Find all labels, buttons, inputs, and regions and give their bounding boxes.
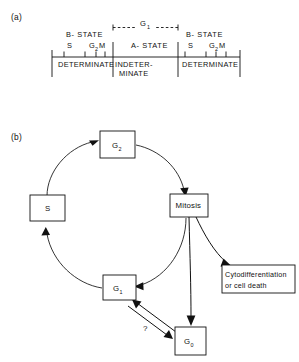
node-g1-box[interactable] [103,275,136,300]
a-state-label: A- STATE [131,41,168,50]
node-mitosis[interactable]: Mitosis [170,194,208,217]
b-state-left-label: B- STATE [66,30,103,39]
phase-g2-left-sub: 2 [95,46,98,52]
arrow-mitosis-to-g0 [189,217,191,318]
panel-a-label: (a) [11,12,22,22]
indeterminate-label-line1: INDETER- [115,60,153,69]
node-cytodifferentiation[interactable]: Cytodifferentiation or cell death [222,265,295,293]
question-mark-label: ? [143,324,148,333]
panel-b-label: (b) [11,132,22,142]
panel-b: (b) [11,131,295,355]
arrowhead-mitosis-to-g0 [187,316,196,327]
arrow-mitosis-to-cyto [196,217,227,263]
b-state-right-phases: S G 2 M [188,41,225,52]
arrowhead-s-to-g2 [89,140,99,146]
phase-g2-right-sub: 2 [215,46,218,52]
node-g1-sublabel: 1 [120,289,123,295]
arrowhead-g1-to-s [41,227,50,236]
arrowhead-g1-to-g0 [164,330,174,339]
b-state-left-phases: S G 2 M [67,41,105,52]
node-g1[interactable]: G 1 [103,275,136,300]
indeterminate-label-line2: MINATE [119,69,148,78]
node-s[interactable]: S [30,195,65,221]
node-g2-label: G [112,141,118,150]
g1-bracket-label: G [140,19,146,28]
node-g0[interactable]: G 0 [175,327,206,355]
determinate-left-label: DETERMINATE [58,60,114,69]
panel-a: (a) G 1 B- STATE A- STATE B- STATE S G 2… [11,12,240,78]
node-cyto-label-line1: Cytodifferentiation [225,270,287,279]
node-g0-label: G [184,337,190,346]
figure-canvas: (a) G 1 B- STATE A- STATE B- STATE S G 2… [0,0,299,362]
arc-g1-to-s [47,234,102,288]
node-s-label: S [45,204,50,213]
g1-g0-exchange: ? [128,300,176,340]
phase-m-right: M [219,41,225,50]
node-cyto-label-line2: or cell death [225,281,267,290]
arc-mitosis-to-g1 [141,218,186,285]
g1-bracket-sublabel: 1 [147,24,150,30]
phase-m-left: M [99,41,105,50]
arc-s-to-g2 [47,142,92,196]
phase-s-right: S [188,41,193,50]
node-g1-label: G [113,284,119,293]
g1-bracket: G 1 [113,19,178,31]
node-g2[interactable]: G 2 [100,131,135,158]
b-state-right-label: B- STATE [186,30,223,39]
phase-s-left: S [67,41,72,50]
arc-g2-to-mitosis [136,145,184,190]
cell-cycle-figure: (a) G 1 B- STATE A- STATE B- STATE S G 2… [0,0,299,362]
node-g0-sublabel: 0 [191,342,194,348]
arrowhead-g0-to-g1 [132,300,142,309]
determinate-right-label: DETERMINATE [182,60,238,69]
node-g2-sublabel: 2 [119,146,122,152]
node-mitosis-label: Mitosis [176,201,202,210]
